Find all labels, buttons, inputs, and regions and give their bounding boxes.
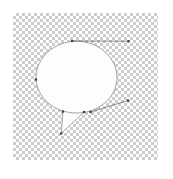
transparency-checkerboard-canvas[interactable] [13,13,158,160]
vector-editor-canvas-view [0,0,173,179]
